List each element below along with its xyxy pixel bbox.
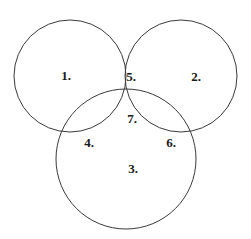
region-label-6: 6. [166, 136, 176, 149]
region-label-1: 1. [61, 69, 71, 82]
venn-circles-canvas [0, 0, 251, 239]
bottom-circle [56, 89, 196, 229]
venn-diagram: 1. 2. 3. 4. 5. 6. 7. [0, 0, 251, 239]
region-label-5: 5. [126, 70, 136, 83]
region-label-2: 2. [191, 70, 201, 83]
region-label-7: 7. [127, 112, 137, 125]
region-label-4: 4. [84, 136, 94, 149]
region-label-3: 3. [128, 162, 138, 175]
